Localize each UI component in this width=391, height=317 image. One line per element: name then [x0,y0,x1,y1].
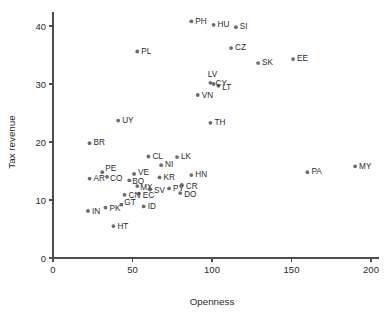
data-point-label-ar: AR [94,174,105,183]
data-point-ar [88,177,92,181]
y-axis-title: Tax revenue [6,115,17,169]
y-tick-label-40: 40 [35,21,46,32]
data-point-ee [291,57,295,61]
data-point-label-hn: HN [195,170,207,179]
data-point-in [86,209,90,213]
data-point-py [167,187,171,191]
data-point-label-ph: PH [195,17,206,26]
data-point-ht [112,224,116,228]
data-point-label-ni: NI [165,160,173,169]
data-point-label-hu: HU [218,20,230,29]
data-point-label-si: SI [240,22,248,31]
data-point-label-uy: UY [122,116,134,125]
x-tick-label-0: 0 [50,264,55,275]
data-point-label-py: PY [173,184,184,193]
x-tick-label-200: 200 [363,264,379,275]
data-point-label-id: ID [148,202,156,211]
data-point-label-ve: VE [138,168,149,177]
data-point-cz [229,46,233,50]
plot-canvas: 050100150200010203040 PHHUSICZPLSKEELVCY… [0,0,391,317]
x-tick-label-100: 100 [204,264,220,275]
data-point-label-in: IN [92,207,100,216]
data-point-label-sk: SK [262,58,273,67]
y-tick-label-10: 10 [35,195,46,206]
data-point-kr [158,175,162,179]
data-point-label-pl: PL [141,47,151,56]
x-axis-title: Openness [190,296,235,307]
data-point-label-lv: LV [208,70,218,79]
data-point-hu [212,23,216,27]
data-point-ve [132,172,136,176]
data-point-pa [306,170,310,174]
y-tick-label-20: 20 [35,137,46,148]
data-point-label-th: TH [214,118,225,127]
data-point-label-gt: GT [124,198,135,207]
data-point-label-ee: EE [297,54,308,63]
data-point-label-my: MY [359,162,372,171]
data-point-label-pa: PA [311,167,322,176]
data-point-label-br: BR [94,138,105,147]
data-point-label-lt: LT [222,83,231,92]
data-point-label-ht: HT [117,222,128,231]
data-point-cl [147,155,151,159]
data-point-label-do: DO [184,190,196,199]
data-point-label-ec: EC [143,191,154,200]
data-point-label-vn: VN [202,91,213,100]
axes [53,12,379,259]
data-point-th [209,121,213,125]
data-point-label-kr: KR [164,173,175,182]
y-tick-label-30: 30 [35,79,46,90]
data-point-label-cz: CZ [235,43,246,52]
data-point-pl [135,50,139,54]
data-point-ph [189,19,193,23]
data-point-sk [256,61,260,65]
data-point-hn [189,173,193,177]
data-point-label-lk: LK [181,152,192,161]
data-point-bo [127,178,131,182]
data-point-my [353,164,357,168]
axis-tick-labels: 050100150200010203040 [35,21,379,276]
data-point-cn [123,193,127,197]
data-point-uy [116,119,120,123]
scatter-plot-figure: 050100150200010203040 PHHUSICZPLSKEELVCY… [0,0,391,317]
data-point-pk [104,206,108,210]
data-point-id [142,204,146,208]
y-tick-label-0: 0 [41,253,46,264]
data-point-vn [196,93,200,97]
data-point-label-sv: SV [154,186,165,195]
data-point-label-pk: PK [109,204,120,213]
data-point-si [234,25,238,29]
data-point-br [88,141,92,145]
x-tick-label-50: 50 [127,264,138,275]
data-point-label-co: CO [110,174,122,183]
data-point-co [105,175,109,179]
data-point-lk [175,155,179,159]
data-point-ni [159,163,163,167]
data-point-label-cl: CL [152,152,163,161]
x-tick-label-150: 150 [284,264,300,275]
data-point-label-pe: PE [105,164,116,173]
